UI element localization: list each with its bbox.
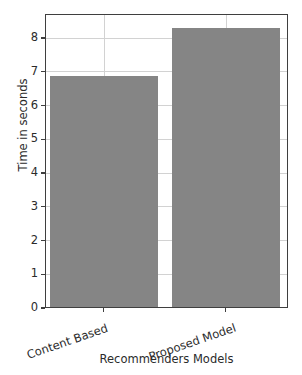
plot-area: [45, 14, 288, 308]
y-axis-tick-label: 8: [24, 32, 38, 44]
y-axis-tick-label: 2: [24, 235, 38, 247]
y-axis-tick-label: 5: [24, 133, 38, 145]
y-axis-tick-label: 1: [24, 268, 38, 280]
y-axis-tick-label: 7: [24, 66, 38, 78]
x-axis-title: Recommenders Models: [45, 352, 288, 366]
x-axis-tick-mark: [225, 308, 226, 312]
y-axis-tick-label: 3: [24, 201, 38, 213]
y-axis-tick-label: 4: [24, 167, 38, 179]
bar-content-based: [50, 76, 158, 307]
bar-proposed-model: [172, 28, 280, 307]
bar-chart-figure: Time in seconds 8 7 6 5 4 3 2 1 0 Conten: [0, 0, 302, 375]
y-axis-tick-label: 0: [24, 302, 38, 314]
y-axis-tick-label: 6: [24, 100, 38, 112]
x-axis-tick-mark: [103, 308, 104, 312]
